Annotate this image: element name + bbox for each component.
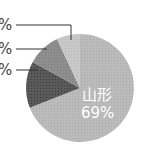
label-slice-dark: % [0,61,12,79]
label-slice-medium: % [0,40,12,58]
label-yamagata-name: 山形 [82,86,112,104]
pie-chart: % % % 山形 69% [0,0,145,166]
label-yamagata-pct: 69% [81,104,114,122]
label-slice-light: % [0,16,12,34]
